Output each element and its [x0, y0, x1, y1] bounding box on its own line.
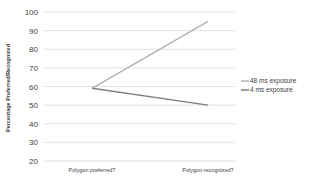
y-tick-label: 100 [25, 8, 39, 17]
series-line [92, 88, 208, 105]
line-chart: 2030405060708090100 Percentage Preferred… [0, 0, 320, 182]
x-axis-categories: Polygon preferred?Polygon recognized? [69, 167, 234, 173]
y-tick-label: 80 [29, 45, 38, 54]
y-axis-label: Percentage Preferred/Recognized [5, 44, 11, 132]
y-axis-ticks: 2030405060708090100 [25, 8, 39, 166]
legend-label: 4 ms exposure [250, 86, 293, 94]
y-tick-label: 90 [29, 27, 38, 36]
x-category-label: Polygon preferred? [69, 167, 116, 173]
data-series [92, 21, 208, 105]
y-tick-label: 20 [29, 157, 38, 166]
y-tick-label: 40 [29, 120, 38, 129]
y-tick-label: 70 [29, 64, 38, 73]
series-line [92, 21, 208, 88]
y-tick-label: 30 [29, 138, 38, 147]
gridlines [44, 12, 235, 161]
y-tick-label: 50 [29, 101, 38, 110]
y-tick-label: 60 [29, 83, 38, 92]
legend-label: 48 ms exposure [250, 77, 297, 85]
legend: 48 ms exposure4 ms exposure [241, 77, 297, 94]
x-category-label: Polygon recognized? [182, 167, 233, 173]
